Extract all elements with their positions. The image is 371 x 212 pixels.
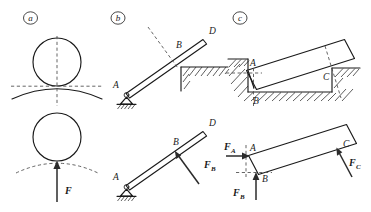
force-FB-label: F: [203, 159, 211, 170]
point-B-lower-label: B: [173, 137, 179, 147]
point-C-upper-label-c: C: [323, 72, 330, 82]
point-A-lower-label-c: A: [249, 143, 256, 153]
panel-c-upper-figure: A B C: [226, 40, 360, 109]
pin-triangle-A-lower: [121, 189, 133, 196]
panel-c-lower-figure: F A F B F C: [223, 125, 361, 202]
force-FC-label-group: F C: [348, 157, 361, 171]
reaction-FB-arrow-shaft: [178, 155, 200, 185]
lower-sphere: [33, 113, 81, 161]
panel-c-letter-badge: c: [233, 12, 247, 24]
corner-hatching-B: [183, 67, 229, 76]
reaction-FB-arrow-group-c: [253, 172, 260, 200]
panel-b-lower-figure: F B A B D: [112, 118, 216, 201]
normal-force-arrow-head: [53, 161, 60, 170]
force-FB-label-c: F: [232, 187, 240, 198]
point-B-lower-label-c: B: [262, 174, 268, 184]
panel-b-letter: b: [116, 13, 121, 23]
force-FC-label: F: [348, 157, 356, 168]
force-FB-subscript-c: B: [239, 193, 245, 201]
point-A-lower-label: A: [112, 172, 119, 182]
force-FA-subscript: A: [230, 147, 236, 155]
point-D-lower-label: D: [208, 118, 216, 128]
engineering-diagram: a F b: [0, 0, 371, 212]
point-B-upper-label-c: B: [253, 96, 259, 106]
panel-b-upper-figure: A B D: [112, 26, 229, 109]
rod-AD-lower: [126, 132, 207, 191]
force-FB-subscript: B: [210, 165, 216, 173]
pin-triangle-A-upper: [121, 97, 133, 104]
force-F-label: F: [64, 185, 72, 196]
reaction-FB-arrow-group: [175, 151, 199, 184]
ground-hatching-A-lower: [118, 197, 136, 202]
ground-hatching-A-upper: [118, 105, 136, 110]
panel-a-letter: a: [28, 13, 33, 23]
normal-force-arrow-group: [53, 161, 60, 203]
point-A-upper-label-c: A: [249, 58, 256, 68]
normal-dashed-line-B: [148, 27, 178, 68]
block-lower: [249, 125, 357, 175]
corner-vertical-hatching: [183, 74, 190, 89]
force-FB-label-group: F B: [203, 159, 216, 173]
point-D-upper-label: D: [208, 26, 216, 36]
force-FA-label: F: [223, 141, 231, 152]
point-A-upper-label: A: [112, 80, 119, 90]
panel-c-letter: c: [238, 13, 242, 23]
panel-a: a F: [11, 12, 103, 202]
force-FC-subscript: C: [356, 163, 361, 171]
force-FA-label-group: F A: [223, 141, 236, 155]
point-C-lower-label-c: C: [343, 139, 350, 149]
panel-b-letter-badge: b: [111, 12, 125, 24]
block-upper: [247, 40, 355, 90]
point-B-upper-label: B: [176, 40, 182, 50]
force-FB-label-group-c: F B: [232, 187, 245, 201]
panel-c: c: [223, 12, 361, 201]
panel-a-letter-badge: a: [24, 12, 38, 24]
figure-root: a F b: [0, 0, 371, 212]
panel-b: b: [111, 12, 229, 201]
